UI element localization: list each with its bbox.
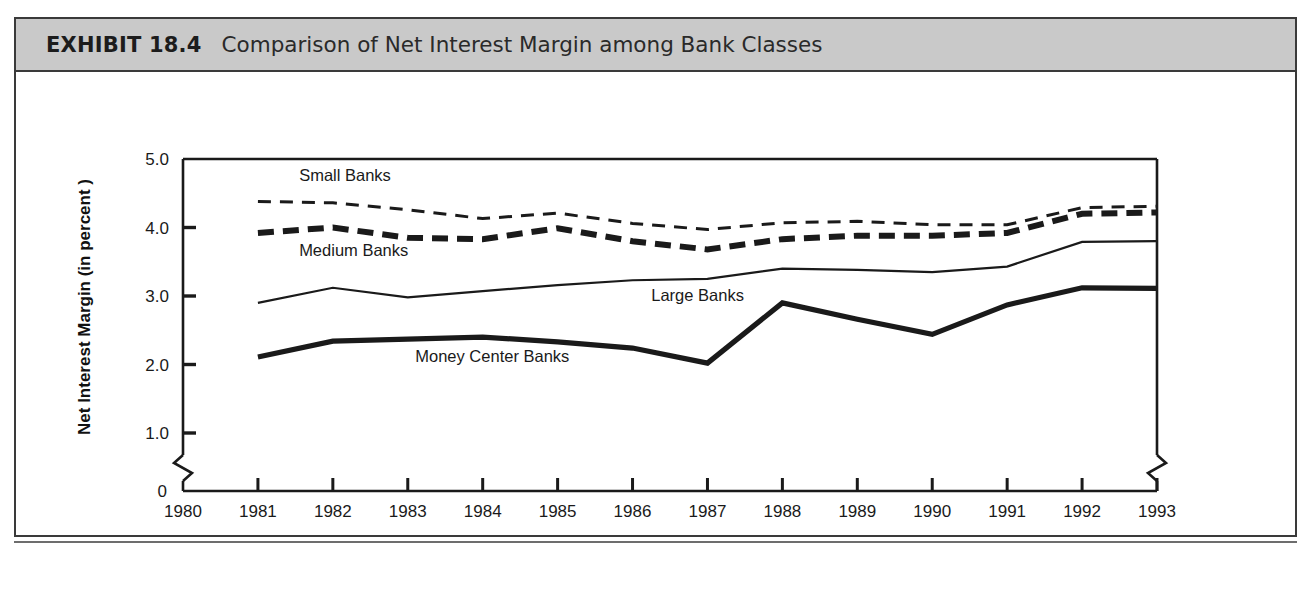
y-tick-label: 3.0 [145,287,169,306]
x-tick-label: 1981 [239,502,277,521]
x-tick-label: 1983 [389,502,427,521]
chart-area: 01.02.03.04.05.0Net Interest Margin (in … [16,72,1295,535]
exhibit-number-label: EXHIBIT 18.4 [46,33,202,57]
x-tick-label: 1993 [1138,502,1176,521]
x-tick-label: 1991 [988,502,1026,521]
y-tick-label: 4.0 [145,219,169,238]
exhibit-page: EXHIBIT 18.4 Comparison of Net Interest … [0,0,1311,608]
series-label-medium-banks: Medium Banks [299,241,408,259]
x-tick-label: 1980 [164,502,202,521]
y-tick-label: 2.0 [145,356,169,375]
y-tick-label: 1.0 [145,424,169,443]
x-tick-label: 1982 [314,502,352,521]
exhibit-header: EXHIBIT 18.4 Comparison of Net Interest … [16,19,1295,72]
exhibit-title: Comparison of Net Interest Margin among … [222,32,823,57]
x-tick-label: 1992 [1063,502,1101,521]
line-chart: 01.02.03.04.05.0Net Interest Margin (in … [16,72,1295,535]
x-tick-label: 1986 [614,502,652,521]
page-bottom-rule [14,541,1297,543]
exhibit-frame: EXHIBIT 18.4 Comparison of Net Interest … [14,17,1297,537]
x-tick-label: 1989 [838,502,876,521]
y-axis-title: Net Interest Margin (in percent ) [75,179,94,435]
x-tick-label: 1984 [464,502,502,521]
series-line-small-banks [258,201,1157,229]
x-tick-label: 1990 [913,502,951,521]
y-tick-label: 5.0 [145,150,169,169]
series-label-money-center-banks: Money Center Banks [415,347,569,365]
series-label-small-banks: Small Banks [299,166,391,184]
x-tick-label: 1985 [539,502,577,521]
y-tick-label: 0 [158,482,167,501]
x-tick-label: 1988 [763,502,801,521]
series-label-large-banks: Large Banks [651,286,744,304]
x-tick-label: 1987 [689,502,727,521]
